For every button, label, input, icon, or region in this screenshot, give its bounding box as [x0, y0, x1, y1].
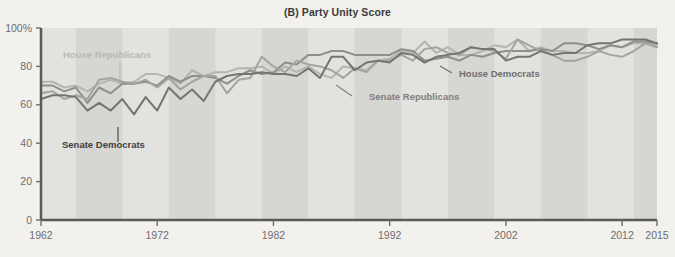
series-annotation-label: House Democrats [459, 68, 540, 79]
x-axis-tick-label: 1982 [262, 229, 286, 241]
x-axis-tick-label: 1992 [378, 229, 402, 241]
series-annotation-label: House Republicans [63, 49, 151, 60]
x-axis-tick-label: 1962 [29, 229, 53, 241]
chart-figure: (B) Party Unity Score 020406080100%19621… [0, 0, 675, 257]
plot-background-band [541, 28, 587, 220]
x-axis-tick-label: 2002 [494, 229, 518, 241]
y-axis-tick-label: 100% [5, 22, 32, 34]
x-axis-tick-label: 2015 [645, 229, 669, 241]
y-axis-tick-label: 60 [20, 98, 32, 110]
plot-background-band [634, 28, 657, 220]
series-annotation-label: Senate Democrats [62, 139, 145, 150]
plot-background-band [262, 28, 308, 220]
y-axis-tick-label: 80 [20, 60, 32, 72]
y-axis-tick-label: 40 [20, 137, 32, 149]
y-axis-tick-label: 0 [26, 214, 32, 226]
series-annotation-label: Senate Republicans [369, 91, 459, 102]
x-axis-tick-label: 1972 [146, 229, 170, 241]
y-axis-tick-label: 20 [20, 175, 32, 187]
x-axis-tick-label: 2012 [610, 229, 634, 241]
party-unity-line-chart: 020406080100%196219721982199220022012201… [0, 0, 675, 257]
plot-background-band [448, 28, 494, 220]
plot-background-band [169, 28, 215, 220]
